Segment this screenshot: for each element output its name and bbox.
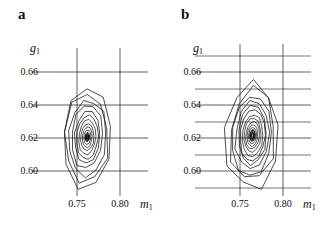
contour-core-7 — [87, 136, 88, 138]
contour-level-8 — [244, 119, 261, 153]
contour-level-7 — [242, 115, 262, 156]
panel-b-plot — [163, 0, 326, 225]
panel-a-gridlines — [32, 48, 148, 196]
panel-b-gridlines — [195, 44, 311, 196]
panel-a: a g1 m1 0.66 0.64 0.62 0.60 0.75 0.80 — [0, 0, 163, 225]
contour-core-6 — [252, 134, 253, 137]
panel-a-contours — [64, 89, 110, 189]
figure-container: a g1 m1 0.66 0.64 0.62 0.60 0.75 0.80 b … — [0, 0, 326, 225]
panel-b: b g1 m1 0.66 0.64 0.62 0.60 0.75 0.80 — [163, 0, 326, 225]
panel-a-plot — [0, 0, 163, 225]
panel-b-contours — [224, 79, 278, 189]
